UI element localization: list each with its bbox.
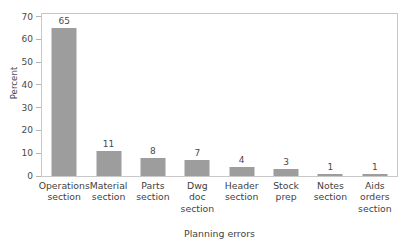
y-axis-tick-label: 50 [0,56,33,68]
bar-value-label: 1 [328,162,334,172]
bar-value-label: 7 [194,148,200,158]
y-axis-tick-label: 70 [0,11,33,23]
bar-group: 1 [353,14,397,176]
bar-group: 3 [264,14,308,176]
bar[interactable] [229,167,254,176]
bar[interactable] [185,160,210,176]
bars-layer: 6511874311 [42,14,397,176]
bar[interactable] [52,28,77,176]
x-axis-tick-label-line: orders [347,191,403,202]
bar-value-label: 1 [372,162,378,172]
bar-chart: Percent 010203040506070 6511874311 Opera… [0,0,417,247]
y-axis-tick-label: 60 [0,33,33,45]
bar[interactable] [362,174,387,177]
x-axis-tick-label-line: section [169,203,225,214]
bar-group: 65 [42,14,86,176]
bar-group: 11 [86,14,130,176]
x-axis-tick-label-line: section [347,203,403,214]
y-axis-tick-label: 20 [0,124,33,136]
y-axis-tick-mark [36,107,41,108]
bar-group: 4 [220,14,264,176]
y-axis-tick-mark [36,130,41,131]
y-axis-tick-mark [36,39,41,40]
x-axis-tick-labels: OperationssectionMaterialsectionPartssec… [42,180,397,226]
y-axis-tick-mark [36,84,41,85]
bar-value-label: 4 [239,155,245,165]
bar-value-label: 65 [58,16,69,26]
bar-value-label: 11 [103,139,114,149]
bar[interactable] [318,174,343,177]
bar-value-label: 8 [150,146,156,156]
x-axis-tick-label: Aidsorderssection [347,180,403,214]
y-axis-tick-label: 40 [0,79,33,91]
y-axis-tick-label: 30 [0,102,33,114]
bar[interactable] [140,158,165,176]
bar-group: 1 [308,14,352,176]
y-axis-tick-mark [36,153,41,154]
y-axis-tick-mark [36,176,41,177]
bar-value-label: 3 [283,157,289,167]
bar[interactable] [274,169,299,176]
bar[interactable] [96,151,121,176]
bar-group: 8 [131,14,175,176]
y-axis-tick-label: 0 [0,170,33,182]
x-axis-tick-label-line: Aids [347,180,403,191]
y-axis-tick-mark [36,16,41,17]
y-axis-tick-label: 10 [0,147,33,159]
bar-group: 7 [175,14,219,176]
x-axis-title: Planning errors [41,228,398,239]
y-axis-tick-mark [36,62,41,63]
